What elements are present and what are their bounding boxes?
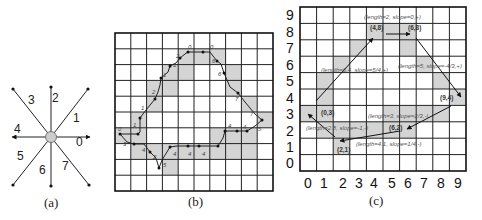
caption-c: (c) — [369, 193, 383, 208]
segment-label: (length=6.4, slope=5/4,+) — [321, 67, 388, 73]
panel-b-chain-grid: 0 1 1 2 1 1 2 0 0 6 6 7 7 5 4 4 4 4 4 5 … — [115, 33, 273, 209]
chain-code-label: 1 — [173, 62, 176, 68]
segment-label: (length=4.1, slope=1/4,-) — [356, 141, 421, 147]
panel-c-polygon-grid: 9 8 7 6 5 4 3 2 1 0 0 1 2 3 4 5 6 7 8 9 — [286, 7, 466, 208]
svg-text:6: 6 — [286, 57, 294, 73]
origin-pixel — [46, 132, 57, 143]
point-label: (4,8) — [370, 24, 383, 32]
svg-text:0: 0 — [286, 155, 294, 171]
chain-code-label: 2 — [175, 53, 180, 59]
svg-text:2: 2 — [286, 123, 294, 139]
svg-text:9: 9 — [286, 7, 294, 23]
svg-text:2: 2 — [339, 175, 347, 191]
x-axis-ticks: 0 1 2 3 4 5 6 7 8 9 — [304, 175, 462, 191]
chain-code-label: 6 — [218, 71, 222, 77]
svg-text:7: 7 — [286, 40, 294, 56]
svg-text:4: 4 — [286, 90, 294, 106]
caption-b: (b) — [188, 194, 203, 209]
direction-label-5: 5 — [17, 149, 24, 163]
svg-text:8: 8 — [437, 175, 445, 191]
point-label: (2,1) — [337, 146, 350, 154]
svg-text:9: 9 — [454, 175, 462, 191]
svg-text:3: 3 — [286, 106, 294, 122]
svg-text:1: 1 — [320, 175, 328, 191]
point-label: (9,4) — [440, 94, 453, 102]
segment-label: (length=3, slope=2/3,-) — [368, 113, 428, 119]
svg-text:1: 1 — [286, 139, 294, 155]
segment-label: (length=2.8, slope=-1,-) — [306, 125, 368, 131]
direction-label-0: 0 — [76, 135, 83, 149]
direction-label-6: 6 — [39, 163, 46, 177]
direction-label-1: 1 — [73, 111, 80, 125]
direction-7-arrow — [51, 137, 89, 185]
panel-a-compass: 0 1 2 3 4 5 6 7 (a) — [12, 87, 90, 210]
direction-label-7: 7 — [62, 159, 69, 173]
chain-code-label: 1 — [141, 105, 144, 111]
chain-code-label: 1 — [133, 122, 136, 128]
point-label: (6,2) — [389, 124, 402, 132]
chain-code-label: 7 — [235, 96, 239, 102]
svg-text:6: 6 — [404, 175, 412, 191]
svg-text:4: 4 — [370, 175, 378, 191]
caption-a: (a) — [44, 195, 58, 210]
svg-text:3: 3 — [355, 175, 363, 191]
svg-text:7: 7 — [420, 175, 428, 191]
chain-code-label: 1 — [163, 72, 166, 78]
direction-label-4: 4 — [14, 122, 21, 136]
figure-canvas: 0 1 2 3 4 5 6 7 (a) — [0, 0, 482, 220]
segment-label: (length=5, slope=-4/3,+) — [398, 63, 462, 69]
y-axis-ticks: 9 8 7 6 5 4 3 2 1 0 — [286, 7, 294, 171]
direction-label-2: 2 — [52, 91, 59, 105]
svg-text:5: 5 — [286, 73, 294, 89]
segment-label: (length=2, slope=0,+) — [364, 14, 421, 20]
point-label: (0,3) — [321, 109, 334, 117]
svg-text:8: 8 — [286, 24, 294, 40]
direction-label-3: 3 — [28, 93, 35, 107]
chain-code-label: 2 — [151, 89, 156, 95]
svg-text:5: 5 — [388, 175, 396, 191]
point-label: (6,8) — [408, 24, 421, 32]
chain-code-label: 2 — [152, 154, 157, 160]
svg-text:0: 0 — [304, 175, 312, 191]
